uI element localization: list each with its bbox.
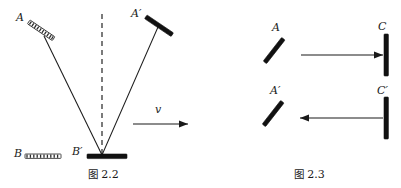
label-a-prime: A′ (269, 84, 281, 97)
label-c-prime: C′ (377, 84, 388, 97)
figure-2-2-diagram: A A′ B B′ v (0, 0, 200, 188)
mirror-b-prime-solid (87, 154, 127, 159)
mirror-c-vertical (384, 34, 388, 76)
caption-figure-2-2: 图 2.2 (88, 166, 119, 181)
mirror-a-dotted (27, 20, 54, 41)
caption-prefix-2-2: 图 (88, 168, 98, 180)
label-a: A (271, 21, 280, 34)
caption-number-2-2: 2.2 (101, 168, 119, 181)
figure-2-3-diagram: C ---- --> A C (200, 0, 401, 188)
figure-page: A A′ B B′ v C ---- --> A C (0, 0, 401, 188)
label-a: A (15, 11, 24, 24)
label-a-prime: A′ (130, 7, 142, 20)
label-b-prime: B′ (71, 145, 83, 158)
figure-2-3-bottom-row: A′ C′ (262, 84, 388, 139)
ray-arrow-right (301, 51, 383, 58)
mirror-a-prime-solid (145, 15, 174, 37)
caption-number-2-3: 2.3 (307, 168, 325, 181)
label-c: C (378, 20, 387, 33)
ray-arrow-left (300, 114, 383, 121)
figure-2-3-top-row: A C (263, 20, 388, 76)
label-b: B (13, 147, 22, 160)
velocity-arrow (133, 120, 188, 127)
ray-up-to-a-prime (102, 27, 158, 155)
mirror-a-prime-tilted (262, 100, 284, 126)
label-v: v (155, 103, 162, 116)
mirror-b-dotted (25, 154, 61, 158)
caption-figure-2-3: 图 2.3 (294, 166, 325, 181)
mirror-a-tilted (263, 37, 285, 63)
ray-down-to-b-prime (44, 36, 102, 155)
mirror-c-prime-vertical (384, 97, 388, 139)
caption-prefix-2-3: 图 (294, 168, 304, 180)
